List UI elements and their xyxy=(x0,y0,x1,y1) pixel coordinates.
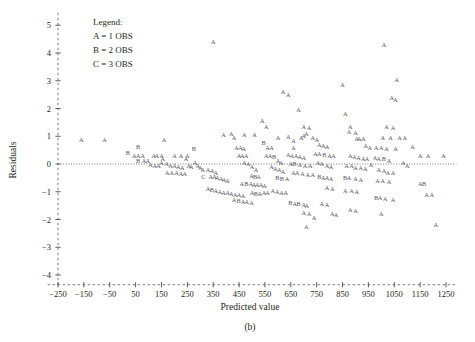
data-point-marker: A xyxy=(343,110,348,117)
data-point-marker: A xyxy=(241,145,246,152)
data-point-marker: A xyxy=(334,211,339,218)
data-point-marker: A xyxy=(405,162,410,169)
data-point-marker: A xyxy=(347,128,352,135)
data-point-marker: A xyxy=(347,174,352,181)
data-point-marker: A xyxy=(380,177,385,184)
x-tick-label: 650 xyxy=(284,289,297,299)
y-tick-label: 0 xyxy=(47,159,51,169)
data-point-marker: A xyxy=(383,195,388,202)
x-tick-label: 250 xyxy=(181,289,194,299)
x-tick-label: 50 xyxy=(131,289,140,299)
data-point-marker: A xyxy=(353,207,358,214)
data-point-marker: A xyxy=(393,145,398,152)
data-point-marker: A xyxy=(221,131,226,138)
data-point-marker: A xyxy=(232,134,237,141)
data-point-marker: A xyxy=(441,152,446,159)
legend-entry-c: C = 3 OBS xyxy=(93,59,133,69)
data-point-marker: A xyxy=(382,41,387,48)
data-point-marker: A xyxy=(358,176,363,183)
x-tick-label: 550 xyxy=(259,289,272,299)
data-point-marker: B xyxy=(296,200,300,207)
data-point-marker: A xyxy=(384,123,389,130)
data-point-marker: A xyxy=(254,166,259,173)
x-tick-label: −150 xyxy=(75,289,93,299)
y-tick-label: 2 xyxy=(47,104,51,114)
data-point-marker: A xyxy=(296,106,301,113)
x-tick-label: 1150 xyxy=(412,289,429,299)
data-point-marker: B xyxy=(136,143,140,150)
x-tick-label: 750 xyxy=(310,289,323,299)
data-point-marker: A xyxy=(317,150,322,157)
data-point-marker: A xyxy=(401,159,406,166)
data-point-marker: B xyxy=(136,157,140,164)
data-point-marker: B xyxy=(192,145,196,152)
data-point-marker: A xyxy=(391,169,396,176)
x-tick-label: 350 xyxy=(207,289,220,299)
data-point-marker: A xyxy=(286,91,291,98)
x-tick-label: −250 xyxy=(49,289,67,299)
data-point-marker: A xyxy=(162,136,167,143)
data-point-marker: A xyxy=(426,152,431,159)
data-point-marker: A xyxy=(379,210,384,217)
data-point-marker: A xyxy=(262,182,267,189)
x-axis-label: Predicted value xyxy=(221,302,280,312)
y-tick-label: 1 xyxy=(47,131,51,141)
data-point-marker: A xyxy=(256,173,261,180)
x-tick-label: 150 xyxy=(155,289,168,299)
data-point-marker: C xyxy=(201,173,205,180)
data-point-marker: A xyxy=(369,161,374,168)
x-tick-label: 1250 xyxy=(438,289,455,299)
data-point-marker: A xyxy=(325,201,330,208)
data-point-marker: A xyxy=(283,189,288,196)
y-tick-label: −2 xyxy=(42,215,51,225)
data-point-marker: A xyxy=(388,134,393,141)
data-point-marker: A xyxy=(329,175,334,182)
data-point-marker: A xyxy=(393,96,398,103)
data-point-marker: A xyxy=(301,154,306,161)
data-point-marker: B xyxy=(293,160,297,167)
scatter-plot-canvas: 543210−1−2−3−4 −250−150−5050150250350450… xyxy=(0,0,475,342)
x-tick-label: 450 xyxy=(233,289,246,299)
data-point-marker: B xyxy=(422,180,426,187)
data-point-marker: A xyxy=(330,185,335,192)
y-tick-label: 3 xyxy=(47,76,51,86)
data-point-marker: A xyxy=(418,152,423,159)
x-tick-label: 850 xyxy=(336,289,349,299)
data-point-marker: A xyxy=(433,221,438,228)
legend-entry-a: A = 1 OBS xyxy=(93,31,133,41)
data-point-marker: A xyxy=(276,134,281,141)
data-point-marker: A xyxy=(211,38,216,45)
data-point-marker: A xyxy=(225,177,230,184)
data-point-marker: A xyxy=(312,214,317,221)
data-point-marker: A xyxy=(156,162,161,169)
data-point-marker: A xyxy=(387,157,392,164)
data-point-marker: A xyxy=(242,131,247,138)
data-point-marker: A xyxy=(285,175,290,182)
data-point-marker: B xyxy=(210,186,214,193)
data-point-marker: A xyxy=(264,123,269,130)
data-point-marker: A xyxy=(249,199,254,206)
data-point-marker: B xyxy=(382,155,386,162)
data-point-marker: A xyxy=(331,152,336,159)
data-point-marker: A xyxy=(269,144,274,151)
x-tick-label: 950 xyxy=(362,289,375,299)
data-point-marker: A xyxy=(363,165,368,172)
data-point-marker: A xyxy=(183,170,188,177)
data-point-marker: A xyxy=(387,178,392,185)
figure-caption: (b) xyxy=(244,322,255,333)
x-tick-label: −50 xyxy=(103,289,116,299)
legend-entry-b: B = 2 OBS xyxy=(93,45,133,55)
data-point-marker: A xyxy=(402,134,407,141)
data-point-marker: A xyxy=(410,143,415,150)
data-point-marker: A xyxy=(304,223,309,230)
data-point-marker: A xyxy=(189,163,194,170)
y-tick-label: −1 xyxy=(42,187,51,197)
data-point-marker: A xyxy=(311,171,316,178)
data-point-marker: A xyxy=(430,191,435,198)
data-point-marker: A xyxy=(308,162,313,169)
data-point-marker: A xyxy=(384,145,389,152)
y-tick-label: 5 xyxy=(47,20,51,30)
data-point-marker: A xyxy=(377,155,382,162)
data-point-marker: A xyxy=(325,143,330,150)
data-point-marker: A xyxy=(343,187,348,194)
